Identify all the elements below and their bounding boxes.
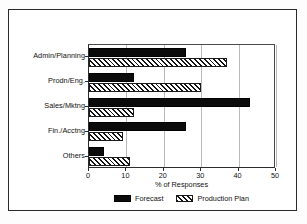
category-label: Admin/Planning: [0, 51, 85, 60]
bar-group: [89, 119, 274, 144]
bar-group: [89, 45, 274, 70]
bar-forecast: [89, 48, 186, 57]
legend-item-production-plan: Production Plan: [176, 194, 249, 203]
bar-forecast: [89, 98, 250, 107]
legend-item-forecast: Forecast: [114, 194, 163, 203]
category-axis: Admin/PlanningProdn/Eng.Sales/MktngFin./…: [0, 44, 85, 168]
bar-forecast: [89, 122, 186, 131]
bar-production-plan: [89, 108, 134, 117]
x-axis-title: % of Responses: [88, 180, 275, 189]
bar-production-plan: [89, 58, 227, 67]
bar-forecast: [89, 147, 104, 156]
x-tick-label: 40: [234, 171, 242, 180]
bar-production-plan: [89, 83, 201, 92]
bar-group: [89, 70, 274, 95]
x-tick-label: 20: [159, 171, 167, 180]
gridline-50: [276, 45, 277, 167]
category-label: Prodn/Eng.: [0, 76, 85, 85]
category-label: Others: [0, 151, 85, 160]
legend-label-production-plan: Production Plan: [197, 194, 249, 203]
chart-legend: Forecast Production Plan: [88, 192, 275, 205]
x-tick-label: 0: [86, 171, 90, 180]
category-label: Fin./Acctng: [0, 126, 85, 135]
bar-groups: [89, 45, 274, 167]
legend-swatch-forecast: [114, 195, 131, 202]
category-label: Sales/Mktng: [0, 101, 85, 110]
x-tick-label: 30: [196, 171, 204, 180]
bar-forecast: [89, 73, 134, 82]
bar-group: [89, 95, 274, 120]
chart-figure: Admin/PlanningProdn/Eng.Sales/MktngFin./…: [0, 0, 307, 224]
x-tick-label: 10: [121, 171, 129, 180]
bar-production-plan: [89, 132, 123, 141]
x-tick-label: 50: [271, 171, 279, 180]
legend-swatch-production-plan: [176, 195, 193, 202]
bar-production-plan: [89, 157, 130, 166]
bar-group: [89, 144, 274, 169]
x-axis-ticks: 01020304050: [88, 168, 275, 180]
legend-label-forecast: Forecast: [135, 194, 163, 203]
plot-area: [88, 44, 275, 168]
